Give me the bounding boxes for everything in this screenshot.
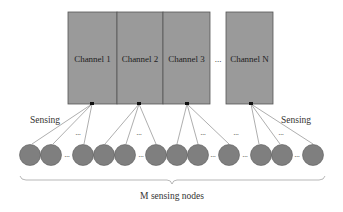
sensing-label-right: Sensing — [281, 115, 311, 125]
channel-n-label: Channel N — [230, 54, 269, 64]
svg-text:...: ... — [75, 129, 81, 137]
spectrum-sensing-diagram: Channel 1 Channel 2 Channel 3 ... Channe… — [0, 0, 343, 212]
sensing-links — [32, 104, 313, 144]
channel-2-label: Channel 2 — [122, 54, 159, 64]
nodes-brace — [20, 176, 325, 184]
diagram-svg: Channel 1 Channel 2 Channel 3 ... Channe… — [0, 0, 343, 212]
svg-text:...: ... — [242, 151, 248, 159]
channel-1-label: Channel 1 — [74, 54, 111, 64]
channel-ellipsis: ... — [215, 54, 222, 64]
svg-text:...: ... — [200, 129, 206, 137]
svg-text:...: ... — [278, 129, 284, 137]
channel-boxes: Channel 1 Channel 2 Channel 3 ... Channe… — [68, 12, 273, 104]
svg-text:...: ... — [64, 151, 70, 159]
sensing-label-left: Sensing — [30, 115, 60, 125]
channel-3-label: Channel 3 — [168, 54, 205, 64]
svg-text:...: ... — [210, 151, 216, 159]
svg-text:...: ... — [138, 151, 144, 159]
svg-text:...: ... — [294, 151, 300, 159]
svg-text:...: ... — [136, 129, 142, 137]
nodes-label: M sensing nodes — [140, 191, 204, 201]
svg-text:...: ... — [233, 129, 239, 137]
